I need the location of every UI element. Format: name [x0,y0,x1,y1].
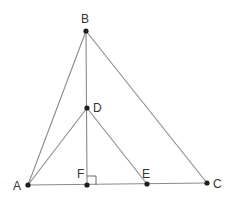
segments [28,31,207,185]
point-a [25,182,30,187]
segment-ac [28,183,207,185]
label-c: C [213,177,222,191]
point-c [204,180,209,185]
point-d [84,105,89,110]
label-b: B [81,12,89,26]
point-b [83,28,88,33]
label-f: F [77,167,84,181]
label-a: A [13,179,21,193]
label-d: D [93,101,102,115]
points [25,28,209,187]
point-e [144,181,149,186]
segment-ab [28,31,86,185]
segment-bc [86,31,207,183]
point-f [84,182,89,187]
label-e: E [142,167,150,181]
point-labels: ABCDEF [13,12,222,193]
geometry-diagram: ABCDEF [0,0,232,200]
segment-de [87,108,147,184]
